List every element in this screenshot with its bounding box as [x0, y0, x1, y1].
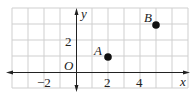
y-tick-label-2: 2	[65, 35, 72, 48]
point-b-label: B	[144, 11, 152, 24]
x-tick-label-neg2: −2	[37, 76, 51, 89]
x-tick-label-2: 2	[104, 76, 111, 89]
point-b-marker	[152, 21, 160, 29]
y-axis-up-arrow-icon	[75, 8, 79, 15]
point-a-marker	[104, 53, 112, 61]
x-axis-label: x	[180, 75, 186, 88]
y-axis-label: y	[81, 7, 87, 20]
x-axis-left-arrow-icon	[6, 71, 13, 75]
point-a-label: A	[94, 44, 102, 57]
x-tick-label-4: 4	[136, 76, 143, 89]
origin-label: O	[64, 59, 73, 72]
